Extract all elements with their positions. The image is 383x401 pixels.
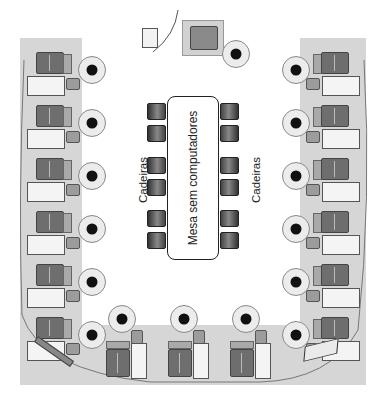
keyboard-icon [63, 266, 72, 286]
head [291, 277, 302, 288]
ups-icon [142, 28, 158, 48]
head [87, 224, 98, 235]
monitor-icon [321, 317, 349, 339]
person-icon [282, 109, 310, 137]
head [87, 330, 98, 341]
head [291, 65, 302, 76]
head [117, 314, 128, 325]
keyboard-icon [168, 341, 192, 349]
chair-icon [147, 157, 166, 174]
head [87, 277, 98, 288]
chair-icon [147, 125, 166, 142]
center-table-label: Mesa sem computadores [186, 111, 200, 246]
keyboard-icon [106, 341, 130, 349]
monitor-icon [168, 349, 192, 377]
cpu-tower-icon [322, 76, 360, 96]
cpu-tower-icon [131, 343, 147, 379]
monitor-icon [321, 105, 349, 127]
monitor-icon [36, 158, 64, 180]
person-icon [78, 268, 106, 296]
keyboard-icon [63, 319, 72, 339]
cpu-tower-icon [27, 235, 65, 255]
monitor-icon [36, 105, 64, 127]
keyboard-icon [230, 341, 254, 349]
head [291, 330, 302, 341]
person-icon [78, 109, 106, 137]
monitor-icon [36, 211, 64, 233]
person-icon [78, 215, 106, 243]
chair-icon [220, 157, 239, 174]
chair-icon [220, 179, 239, 196]
keyboard-icon [63, 54, 72, 74]
chairs-label-right: Cadeiras [250, 157, 262, 203]
head [291, 224, 302, 235]
cpu-tower-icon [27, 288, 65, 308]
head [291, 118, 302, 129]
person-icon [78, 162, 106, 190]
chair-icon [220, 103, 239, 120]
chair-icon [147, 232, 166, 249]
chair-icon [220, 125, 239, 142]
cpu-tower-icon [322, 235, 360, 255]
person-icon [282, 56, 310, 84]
head [87, 171, 98, 182]
monitor-icon [321, 52, 349, 74]
person-icon [78, 321, 106, 349]
chair-icon [220, 210, 239, 227]
instructor-monitor-icon [190, 26, 218, 50]
mouse-icon [255, 330, 267, 344]
monitor-icon [106, 349, 130, 377]
person-icon [78, 56, 106, 84]
monitor-icon [36, 52, 64, 74]
monitor-icon [321, 211, 349, 233]
person-icon [282, 268, 310, 296]
person-icon [108, 305, 136, 333]
head [87, 118, 98, 129]
cpu-tower-icon [255, 343, 271, 379]
head [179, 314, 190, 325]
center-table: Mesa sem computadores [167, 96, 219, 260]
chair-icon [147, 179, 166, 196]
person-icon [232, 305, 260, 333]
chairs-label-left: Cadeiras [137, 157, 149, 203]
chair-icon [147, 103, 166, 120]
mouse-icon [131, 330, 143, 344]
cpu-tower-icon [322, 288, 360, 308]
monitor-icon [230, 349, 254, 377]
instructor-station [182, 20, 224, 56]
cpu-tower-icon [27, 129, 65, 149]
cpu-tower-icon [27, 182, 65, 202]
head [291, 171, 302, 182]
monitor-icon [321, 158, 349, 180]
cpu-tower-icon [322, 129, 360, 149]
keyboard-icon [63, 107, 72, 127]
keyboard-icon [63, 160, 72, 180]
person-icon [282, 162, 310, 190]
cpu-tower-icon [193, 343, 209, 379]
person-icon [282, 321, 310, 349]
person-icon [170, 305, 198, 333]
mouse-icon [193, 330, 205, 344]
head [241, 314, 252, 325]
person-icon [282, 215, 310, 243]
monitor-icon [36, 264, 64, 286]
monitor-icon [321, 264, 349, 286]
chair-icon [147, 210, 166, 227]
chair-icon [220, 232, 239, 249]
keyboard-icon [63, 213, 72, 233]
head [87, 65, 98, 76]
cpu-tower-icon [27, 76, 65, 96]
instructor-person-icon [222, 40, 250, 68]
monitor-icon [36, 317, 64, 339]
cpu-tower-icon [322, 182, 360, 202]
